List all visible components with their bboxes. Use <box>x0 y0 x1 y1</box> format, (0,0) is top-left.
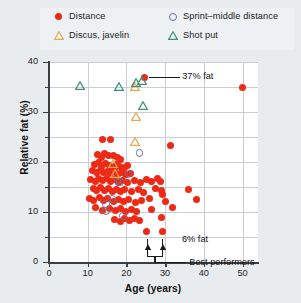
data-point <box>125 170 133 178</box>
gridline-vertical <box>88 62 89 262</box>
y-tick-minor <box>45 187 49 188</box>
gridline-horizontal <box>49 112 258 113</box>
y-tick-label: 10 <box>14 206 38 216</box>
scatter-plot-figure: Distance Discus, javelin Sprint–middle d… <box>0 0 301 303</box>
legend-label-distance: Distance <box>69 11 106 21</box>
x-tick-label: 50 <box>231 268 255 278</box>
annotation-37-fat: 37% fat <box>182 71 213 81</box>
legend-item-sprint-middle-distance: Sprint–middle distance <box>168 11 278 21</box>
data-point <box>143 228 150 235</box>
chart-legend: Distance Discus, javelin Sprint–middle d… <box>40 8 294 50</box>
blue-open-circle-icon <box>168 11 178 21</box>
data-point <box>130 132 140 150</box>
legend-label-discus-javelin: Discus, javelin <box>69 30 129 40</box>
data-point <box>159 191 166 198</box>
annotation-best-performers: Best performers <box>189 257 254 267</box>
data-point <box>159 228 166 235</box>
gridline-horizontal <box>49 237 258 238</box>
gridline-horizontal <box>49 162 258 163</box>
data-point <box>146 195 153 202</box>
data-point <box>136 149 144 157</box>
x-tick-label: 30 <box>153 268 177 278</box>
data-point <box>157 178 164 185</box>
data-point <box>140 189 147 196</box>
arrowhead-right <box>159 237 167 255</box>
y-tick-label: 40 <box>14 56 38 66</box>
x-tick-label: 20 <box>114 268 138 278</box>
y-tick-major <box>43 112 49 113</box>
annotation-6-fat: 6% fat <box>182 234 208 244</box>
gridline-horizontal <box>49 137 258 138</box>
data-point <box>138 96 148 114</box>
annotation-leader-37 <box>149 77 180 78</box>
legend-label-shot-put: Shot put <box>183 30 218 40</box>
data-point <box>193 196 200 203</box>
data-point <box>162 198 169 205</box>
legend-item-distance: Distance <box>54 11 106 21</box>
y-tick-major <box>43 162 49 163</box>
y-tick-major <box>43 212 49 213</box>
gridline-vertical <box>204 62 205 262</box>
data-point <box>136 217 143 224</box>
x-tick <box>126 262 127 267</box>
data-point <box>185 186 192 193</box>
x-tick-label: 10 <box>76 268 100 278</box>
data-point <box>148 206 155 213</box>
y-tick-minor <box>45 87 49 88</box>
data-point <box>138 197 145 204</box>
data-point <box>167 142 174 149</box>
legend-item-discus-javelin: Discus, javelin <box>54 30 129 40</box>
orange-open-triangle-icon <box>54 30 64 40</box>
teal-open-triangle-icon <box>168 30 178 40</box>
data-point <box>99 136 106 143</box>
x-tick <box>88 262 89 267</box>
data-point <box>124 179 131 186</box>
x-tick-label: 40 <box>192 268 216 278</box>
data-point <box>133 208 140 215</box>
data-point <box>102 207 110 215</box>
data-point <box>137 71 147 89</box>
legend-label-sprint-middle-distance: Sprint–middle distance <box>183 11 278 21</box>
y-tick-label: 0 <box>14 256 38 266</box>
bracket-leader <box>154 262 186 263</box>
y-tick-minor <box>45 137 49 138</box>
arrowhead-left <box>144 237 152 255</box>
data-point <box>239 84 246 91</box>
gridline-vertical <box>243 62 244 262</box>
data-point <box>114 77 124 95</box>
data-point <box>110 164 120 182</box>
data-point <box>75 76 85 94</box>
y-tick-minor <box>45 237 49 238</box>
y-tick-major <box>43 62 49 63</box>
x-axis-title: Age (years) <box>78 283 228 294</box>
data-point <box>124 162 131 169</box>
y-axis-title: Relative fat (%) <box>19 90 30 186</box>
red-filled-circle-icon <box>54 11 64 21</box>
data-point <box>92 204 99 211</box>
data-point <box>119 212 127 220</box>
x-tick <box>49 262 50 267</box>
data-point <box>158 214 165 221</box>
legend-item-shot-put: Shot put <box>168 30 218 40</box>
x-tick-label: 0 <box>37 268 61 278</box>
gridline-horizontal <box>49 62 258 63</box>
